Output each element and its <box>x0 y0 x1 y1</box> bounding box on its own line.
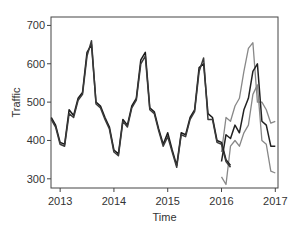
y-tick-label: 500 <box>27 96 45 108</box>
plot-frame <box>51 17 278 188</box>
y-tick-label: 300 <box>27 173 45 185</box>
traffic-chart: 20132014201520162017 300400500600700 Tim… <box>0 0 304 233</box>
x-tick-label: 2013 <box>48 195 72 207</box>
y-axis: 300400500600700 <box>27 19 51 184</box>
x-tick-label: 2017 <box>263 195 287 207</box>
y-tick-label: 400 <box>27 134 45 146</box>
x-axis: 20132014201520162017 <box>48 188 288 207</box>
y-axis-title: Traffic <box>10 87 22 117</box>
x-tick-label: 2015 <box>155 195 179 207</box>
plot-lines <box>51 41 275 185</box>
y-tick-label: 600 <box>27 58 45 70</box>
x-axis-title: Time <box>152 211 176 223</box>
y-tick-label: 700 <box>27 19 45 31</box>
x-tick-label: 2016 <box>209 195 233 207</box>
x-tick-label: 2014 <box>102 195 126 207</box>
